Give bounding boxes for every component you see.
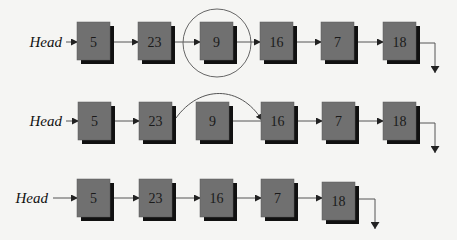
node-value: 23 <box>149 191 163 206</box>
null-pointer-icon <box>359 199 375 229</box>
node-value: 18 <box>393 114 407 129</box>
row-original-list: Head 5 23 9 16 7 <box>29 9 436 77</box>
node-16: 16 <box>200 179 237 221</box>
node-value: 5 <box>90 191 97 206</box>
node-7: 7 <box>322 102 359 144</box>
node-value: 23 <box>149 114 163 129</box>
node-value: 18 <box>332 194 346 209</box>
node-18: 18 <box>383 22 420 64</box>
node-23: 23 <box>139 102 176 144</box>
node-value: 7 <box>274 191 281 206</box>
node-value: 9 <box>209 114 216 129</box>
node-16: 16 <box>260 22 297 64</box>
null-pointer-icon <box>420 123 435 153</box>
linked-list-diagram: Head 5 23 9 16 7 <box>0 0 457 240</box>
node-5: 5 <box>77 179 114 221</box>
head-label: Head <box>29 113 63 129</box>
node-5: 5 <box>78 102 115 144</box>
node-value: 5 <box>90 35 97 50</box>
node-value: 7 <box>334 35 341 50</box>
node-value: 18 <box>393 35 407 50</box>
node-value: 16 <box>210 191 224 206</box>
head-label: Head <box>29 34 63 50</box>
node-23: 23 <box>138 22 175 64</box>
node-value: 23 <box>148 35 162 50</box>
row-result-list: Head 5 23 16 7 18 <box>15 179 376 229</box>
node-5: 5 <box>77 22 114 64</box>
node-7: 7 <box>261 179 298 221</box>
null-pointer-icon <box>420 43 435 73</box>
node-7: 7 <box>321 22 358 64</box>
node-18: 18 <box>322 182 359 224</box>
node-16: 16 <box>261 102 298 144</box>
node-18: 18 <box>383 102 420 144</box>
head-label: Head <box>15 190 49 206</box>
node-value: 16 <box>271 114 285 129</box>
node-23: 23 <box>139 179 176 221</box>
node-value: 16 <box>270 35 284 50</box>
node-value: 7 <box>335 114 342 129</box>
node-9: 9 <box>200 22 237 64</box>
node-value: 5 <box>91 114 98 129</box>
node-9: 9 <box>196 102 233 144</box>
row-bypass-list: Head 5 23 9 16 7 <box>29 93 436 153</box>
node-value: 9 <box>213 35 220 50</box>
